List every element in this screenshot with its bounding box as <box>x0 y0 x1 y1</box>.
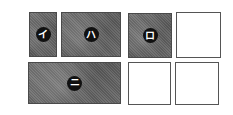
label-badge-ha: ハ <box>84 27 99 42</box>
label-badge-ro: ロ <box>143 28 158 43</box>
box-ro: ロ <box>128 13 172 58</box>
box-ni: ニ <box>28 62 121 104</box>
box-blank-bottom-right <box>175 62 219 105</box>
box-ha: ハ <box>61 12 121 57</box>
label-badge-ni: ニ <box>67 76 82 91</box>
label-badge-i: イ <box>36 27 51 42</box>
box-i: イ <box>29 12 57 57</box>
box-blank-bottom-middle <box>128 62 171 105</box>
box-blank-top-right <box>176 12 221 58</box>
